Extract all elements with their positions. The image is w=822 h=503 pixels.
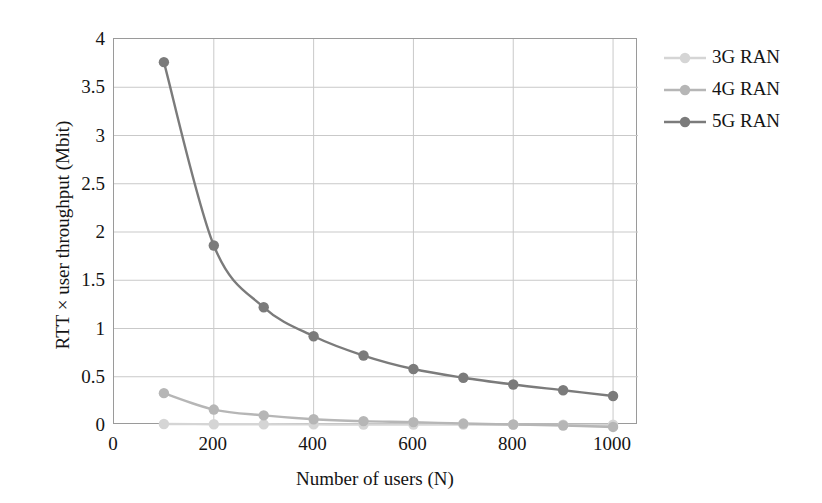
legend-item-3g-ran[interactable]: 3G RAN [662,42,817,74]
legend-marker-4g-ran-icon [662,74,708,106]
x-tick-label: 600 [398,434,427,453]
legend-item-5g-ran[interactable]: 5G RAN [662,106,817,138]
x-tick-label: 0 [108,434,118,453]
y-tick-label: 2.5 [81,174,105,193]
x-tick-label: 1000 [593,434,631,453]
data-point-5g-ran-500 [358,350,368,360]
series-line-5g-ran [164,62,613,396]
data-point-3g-ran-100 [159,419,169,429]
data-point-5g-ran-800 [508,379,518,389]
data-point-5g-ran-100 [159,57,169,67]
data-point-5g-ran-900 [558,385,568,395]
grid-lines [114,39,638,425]
data-point-5g-ran-700 [458,373,468,383]
data-point-4g-ran-800 [508,419,518,429]
data-point-4g-ran-400 [308,414,318,424]
data-point-5g-ran-300 [259,302,269,312]
y-tick-label: 3 [96,126,106,145]
plot-area [113,38,637,424]
x-tick-label: 400 [298,434,327,453]
data-point-3g-ran-200 [209,419,219,429]
y-tick-label: 0 [96,415,106,434]
data-point-4g-ran-900 [558,420,568,430]
data-point-4g-ran-100 [159,388,169,398]
data-point-4g-ran-200 [209,404,219,414]
data-point-4g-ran-500 [358,416,368,426]
legend-item-4g-ran[interactable]: 4G RAN [662,74,817,106]
y-tick-label: 0.5 [81,367,105,386]
legend-label: 5G RAN [712,110,780,132]
x-axis-tick-labels: 02004006008001000 [0,434,822,460]
legend-marker-5g-ran-icon [662,106,708,138]
x-axis-title: Number of users (N) [113,468,637,490]
y-tick-label: 3.5 [81,77,105,96]
y-tick-label: 4 [96,29,106,48]
data-point-5g-ran-600 [408,364,418,374]
data-point-3g-ran-300 [259,419,269,429]
data-point-4g-ran-300 [259,410,269,420]
legend-label: 3G RAN [712,46,780,68]
legend-marker-3g-ran-icon [662,42,708,74]
data-point-5g-ran-1000 [608,391,618,401]
y-axis-title: RTT × user throughput (Mbit) [52,65,74,405]
data-point-4g-ran-600 [408,417,418,427]
data-point-5g-ran-400 [308,331,318,341]
data-point-5g-ran-200 [209,240,219,250]
series-markers [159,57,619,432]
y-tick-label: 2 [96,222,106,241]
chart-legend: 3G RAN4G RAN5G RAN [662,42,817,138]
plot-svg [114,39,638,425]
series-line-4g-ran [164,393,613,427]
data-point-4g-ran-700 [458,418,468,428]
y-tick-label: 1 [96,319,106,338]
y-tick-label: 1.5 [81,270,105,289]
chart-figure: 00.511.522.533.54 02004006008001000 Numb… [0,0,822,503]
x-tick-label: 200 [199,434,228,453]
legend-label: 4G RAN [712,78,780,100]
x-tick-label: 800 [498,434,527,453]
data-point-4g-ran-1000 [608,422,618,432]
series-lines [164,62,613,427]
